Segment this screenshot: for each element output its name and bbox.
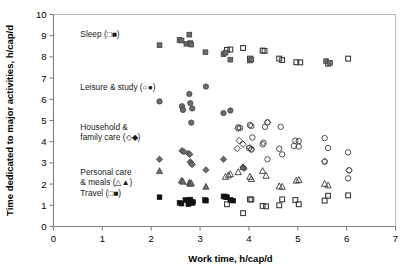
data-point-filled [190, 106, 195, 111]
x-tick-label: 2 [149, 233, 154, 244]
y-tick-label: 3 [41, 157, 46, 168]
series-label: Sleep (□■) [80, 29, 119, 39]
y-tick-label: 8 [41, 51, 46, 62]
data-point-open [265, 157, 270, 162]
x-tick-label: 7 [393, 233, 398, 244]
data-point-open [322, 135, 327, 140]
data-point-filled [157, 99, 162, 104]
data-point-filled [189, 42, 194, 47]
data-point-filled [221, 110, 226, 115]
data-point-filled [228, 108, 233, 113]
data-point-filled [189, 120, 194, 125]
data-point-open [261, 140, 266, 145]
data-point-open [345, 150, 350, 155]
data-point-open [346, 56, 351, 61]
y-tick-label: 0 [41, 221, 46, 232]
data-points [156, 32, 352, 215]
data-point-filled [204, 198, 209, 203]
data-point-filled [157, 43, 162, 48]
data-point-open [259, 168, 265, 174]
data-point-filled [328, 60, 333, 65]
data-point-filled [203, 50, 208, 55]
data-point-filled [180, 107, 185, 112]
data-point-filled [223, 50, 228, 55]
data-point-open [296, 138, 301, 143]
data-point-filled [203, 84, 208, 89]
series-label: Household &family care (◇◆) [80, 122, 140, 142]
x-tick-label: 1 [100, 233, 105, 244]
chart-svg: 01234567012345678910 Sleep (□■)Leisure &… [0, 0, 417, 273]
y-tick-label: 10 [36, 9, 47, 20]
x-tick-label: 3 [197, 233, 202, 244]
series-inline-labels: Sleep (□■)Leisure & study (○●)Household … [80, 29, 155, 198]
x-tick-label: 0 [51, 233, 56, 244]
data-point-open [241, 211, 246, 216]
data-point-open [325, 145, 330, 150]
data-point-filled [179, 38, 184, 43]
series-group [157, 32, 350, 66]
data-point-open [345, 176, 350, 181]
data-point-filled [187, 32, 192, 37]
data-point-open [241, 46, 246, 51]
data-point-open [326, 193, 331, 198]
data-point-filled [157, 195, 162, 200]
data-point-filled [191, 200, 196, 205]
series-label: Travel (□■) [80, 188, 121, 198]
x-tick-label: 6 [344, 233, 349, 244]
series-label: Personal care& meals (△▲) [80, 167, 132, 187]
data-point-open [280, 197, 285, 202]
data-point-open [277, 146, 282, 151]
data-point-open [234, 145, 240, 151]
y-tick-label: 9 [41, 30, 46, 41]
y-tick-label: 2 [41, 179, 46, 190]
data-point-open [322, 198, 327, 203]
x-tick-label: 5 [295, 233, 300, 244]
scatter-chart-figure: 01234567012345678910 Sleep (□■)Leisure &… [0, 0, 417, 273]
data-point-open [279, 152, 284, 157]
data-point-filled [228, 57, 233, 62]
y-tick-label: 1 [41, 200, 46, 211]
series-group [157, 193, 350, 216]
series-group [157, 84, 352, 181]
x-axis-title: Work time, h/cap/d [188, 253, 272, 264]
x-tick-label: 4 [246, 233, 251, 244]
data-point-filled [188, 100, 193, 105]
data-point-open [278, 124, 283, 129]
data-point-open [250, 135, 255, 140]
data-point-filled [187, 91, 192, 96]
y-tick-label: 7 [41, 73, 46, 84]
series-group [156, 164, 331, 189]
data-point-filled [220, 156, 226, 162]
y-axis-title: Time dedicated to major activities, h/ca… [4, 25, 15, 216]
series-label: Leisure & study (○●) [80, 82, 155, 92]
data-point-filled [231, 198, 236, 203]
y-tick-label: 6 [41, 94, 46, 105]
data-point-filled [156, 156, 162, 162]
y-tick-label: 4 [41, 136, 46, 147]
series-group [156, 119, 352, 173]
data-point-open [346, 193, 351, 198]
data-point-filled [203, 183, 209, 189]
data-point-open [277, 203, 282, 208]
data-point-filled [249, 57, 254, 62]
data-point-filled [156, 168, 162, 174]
data-point-filled [203, 167, 209, 173]
data-point-open [248, 176, 254, 182]
y-tick-label: 5 [41, 115, 46, 126]
